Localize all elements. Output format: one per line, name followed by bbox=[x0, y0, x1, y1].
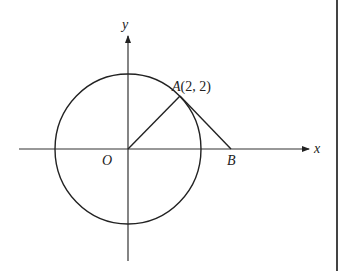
point-A-coords: (2, 2) bbox=[181, 79, 212, 95]
geometry-figure: y x O B A(2, 2) bbox=[0, 0, 340, 271]
point-A-letter: A bbox=[171, 79, 181, 94]
point-A-label: A(2, 2) bbox=[171, 79, 211, 95]
segment-AB bbox=[180, 96, 231, 149]
segment-OA bbox=[128, 96, 180, 149]
point-B-label: B bbox=[227, 153, 236, 168]
origin-label: O bbox=[102, 153, 112, 168]
y-axis-label: y bbox=[120, 17, 129, 32]
right-border-line bbox=[336, 0, 338, 271]
x-axis-label: x bbox=[313, 141, 321, 156]
